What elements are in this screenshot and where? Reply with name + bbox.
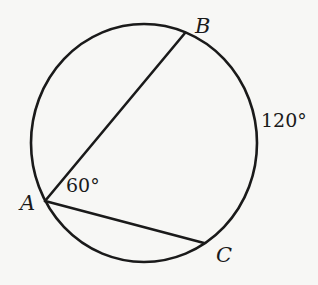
point-label-a: A [18,191,35,215]
arc-bc-label: 120° [261,109,307,131]
chord-ac [45,201,204,243]
point-label-c: C [216,243,232,267]
angle-a-label: 60° [66,174,100,196]
point-label-b: B [194,14,210,38]
circle-diagram: B A C 60° 120° [0,0,318,285]
